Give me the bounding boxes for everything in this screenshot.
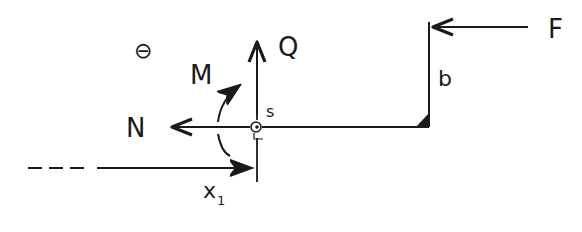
shear-label: Q [278,34,298,60]
coordinate-label: x1 [203,180,224,202]
moment-arc-lower [218,134,230,156]
arm-length-label: b [438,68,452,90]
moment-arc-upper [218,85,240,122]
normal-label: N [126,115,145,141]
coordinate-letter: x [203,178,216,203]
moment-label: M [190,62,212,88]
force-label: F [548,16,563,42]
free-body-diagram: ⊖ M Q N s F b x1 [0,0,582,232]
rigid-corner-triangle [416,113,429,127]
coordinate-subscript: 1 [217,193,225,208]
section-point-label: s [266,104,274,120]
sign-label: ⊖ [134,40,152,62]
